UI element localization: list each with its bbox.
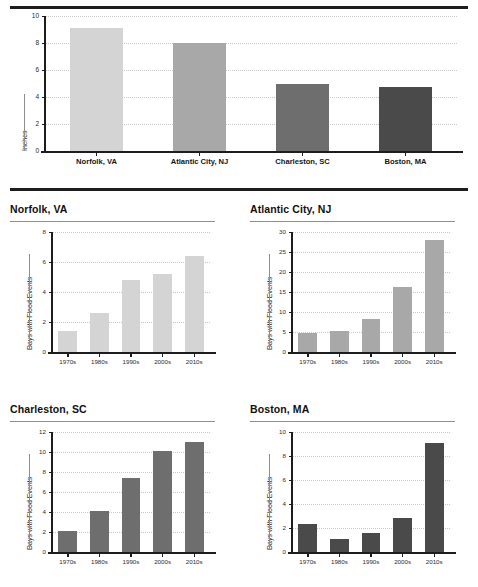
y-tick-label: 0 xyxy=(275,549,286,555)
y-axis-title: Days with Flood Events xyxy=(26,477,33,550)
y-axis-title: Days with Flood Events xyxy=(26,277,33,350)
panel-rule-charleston xyxy=(10,421,215,422)
x-axis-spine xyxy=(288,352,456,354)
main-plot-area: 0246810Norfolk, VAAtlantic City, NJCharl… xyxy=(45,16,457,151)
bar xyxy=(185,442,204,552)
x-tick-label: 1970s xyxy=(52,359,84,365)
y-axis-title: Days with Flood Events xyxy=(266,477,273,550)
bar xyxy=(58,331,77,352)
y-tick-label: 10 xyxy=(275,429,286,435)
x-tick-label: 1980s xyxy=(84,559,116,565)
x-tick-mark xyxy=(99,554,100,557)
y-tick-label: 30 xyxy=(275,229,286,235)
x-tick-label: 2000s xyxy=(387,359,419,365)
y-tick-label: 8 xyxy=(35,469,46,475)
x-tick-mark xyxy=(405,153,406,156)
main-chart: 0246810Norfolk, VAAtlantic City, NJCharl… xyxy=(0,6,478,192)
y-tick-label: 10 xyxy=(30,13,39,20)
bar xyxy=(173,43,227,151)
y-tick-label: 6 xyxy=(30,67,39,74)
x-tick-mark xyxy=(130,354,131,357)
bar xyxy=(379,87,433,151)
plot-area-boston: 02468101970s1980s1990s2000s2010sDays wit… xyxy=(292,432,450,552)
gridline xyxy=(292,432,450,433)
top-divider-rule xyxy=(10,6,468,9)
x-tick-label: 1980s xyxy=(324,359,356,365)
panel-boston: Boston, MA 02468101970s1980s1990s2000s20… xyxy=(240,396,465,587)
x-tick-mark xyxy=(162,354,163,357)
bar xyxy=(298,333,317,352)
x-tick-label: 2010s xyxy=(418,359,450,365)
y-tick-label: 15 xyxy=(275,289,286,295)
bar xyxy=(425,443,444,552)
y-axis-title-rule xyxy=(269,254,270,350)
bar xyxy=(393,287,412,352)
gridline xyxy=(45,16,457,17)
y-axis-spine xyxy=(291,232,293,353)
y-tick-label: 10 xyxy=(35,449,46,455)
bar xyxy=(393,518,412,552)
panel-title-atlantic-city: Atlantic City, NJ xyxy=(250,204,331,215)
bar xyxy=(122,280,141,352)
x-tick-mark xyxy=(434,354,435,357)
x-tick-mark xyxy=(194,354,195,357)
y-tick-label: 6 xyxy=(35,489,46,495)
x-tick-label: 1990s xyxy=(115,559,147,565)
y-axis-spine xyxy=(51,432,53,553)
y-tick-label: 4 xyxy=(35,289,46,295)
y-tick-label: 0 xyxy=(35,349,46,355)
x-tick-label: 2000s xyxy=(147,559,179,565)
y-tick-label: 6 xyxy=(275,477,286,483)
y-tick-label: 12 xyxy=(35,429,46,435)
y-tick-label: 6 xyxy=(35,259,46,265)
gridline xyxy=(52,232,210,233)
x-tick-mark xyxy=(199,153,200,156)
y-tick-label: 2 xyxy=(35,529,46,535)
x-tick-mark xyxy=(307,354,308,357)
gridline xyxy=(52,432,210,433)
panel-rule-norfolk xyxy=(10,221,215,222)
plot-area-norfolk: 024681970s1980s1990s2000s2010sDays with … xyxy=(52,232,210,352)
x-tick-mark xyxy=(162,554,163,557)
y-axis-title: Inches xyxy=(21,130,28,151)
x-axis-spine xyxy=(41,151,463,153)
y-axis-spine xyxy=(51,232,53,353)
bar xyxy=(298,524,317,552)
y-axis-title-rule xyxy=(24,94,25,151)
x-tick-mark xyxy=(370,354,371,357)
bar xyxy=(58,531,77,552)
x-tick-mark xyxy=(402,354,403,357)
x-axis-spine xyxy=(48,352,216,354)
bar xyxy=(362,319,381,352)
y-tick-label: 4 xyxy=(275,501,286,507)
x-tick-label: 2010s xyxy=(418,559,450,565)
bar xyxy=(362,533,381,552)
x-tick-label: 2000s xyxy=(147,359,179,365)
panel-rule-boston xyxy=(250,421,455,422)
x-tick-label: 1990s xyxy=(355,559,387,565)
panel-title-charleston: Charleston, SC xyxy=(10,404,87,415)
x-tick-label: 2000s xyxy=(387,559,419,565)
bar xyxy=(153,274,172,352)
x-tick-label: 1980s xyxy=(84,359,116,365)
x-tick-mark xyxy=(370,554,371,557)
x-tick-label: 1990s xyxy=(355,359,387,365)
x-tick-label: 2010s xyxy=(178,559,210,565)
gridline xyxy=(292,232,450,233)
y-axis-title-rule xyxy=(29,254,30,350)
plot-area-charleston: 0246810121970s1980s1990s2000s2010sDays w… xyxy=(52,432,210,552)
x-tick-label: 1970s xyxy=(292,559,324,565)
x-tick-label: 1980s xyxy=(324,559,356,565)
x-tick-label: 2010s xyxy=(178,359,210,365)
y-axis-title: Days with Flood Events xyxy=(266,277,273,350)
panel-charleston: Charleston, SC 0246810121970s1980s1990s2… xyxy=(0,396,225,587)
x-tick-label: Boston, MA xyxy=(354,158,457,166)
bar xyxy=(425,240,444,352)
plot-area-atlantic-city: 0510152025301970s1980s1990s2000s2010sDay… xyxy=(292,232,450,352)
panel-title-boston: Boston, MA xyxy=(250,404,309,415)
x-tick-label: 1990s xyxy=(115,359,147,365)
y-tick-label: 2 xyxy=(30,121,39,128)
y-axis-title-rule xyxy=(29,454,30,550)
x-tick-mark xyxy=(67,554,68,557)
panel-rule-atlantic-city xyxy=(250,221,455,222)
